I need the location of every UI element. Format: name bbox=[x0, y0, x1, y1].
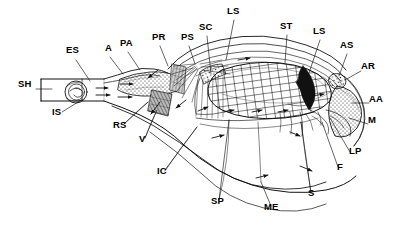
leader-lines bbox=[36, 20, 369, 206]
label-RS: RS bbox=[113, 120, 127, 130]
esophagus-spiral bbox=[65, 81, 87, 103]
mantle-edge bbox=[104, 101, 356, 211]
label-S: S bbox=[308, 188, 315, 198]
label-IS: IS bbox=[52, 107, 61, 117]
label-PS: PS bbox=[181, 32, 194, 42]
label-SH: SH bbox=[18, 79, 32, 89]
label-AS: AS bbox=[340, 40, 354, 50]
label-F: F bbox=[337, 162, 343, 172]
label-PR: PR bbox=[152, 32, 166, 42]
label-M: M bbox=[368, 115, 376, 125]
label-IC: IC bbox=[157, 166, 167, 176]
label-ES: ES bbox=[66, 45, 79, 55]
label-ST: ST bbox=[280, 21, 293, 31]
label-LS-anterior: LS bbox=[313, 26, 326, 36]
label-LP: LP bbox=[349, 146, 362, 156]
label-PA: PA bbox=[120, 38, 133, 48]
label-AR: AR bbox=[361, 61, 375, 71]
label-SC: SC bbox=[199, 22, 213, 32]
anterior-adductor bbox=[329, 86, 362, 137]
label-LS-posterior: LS bbox=[227, 6, 240, 16]
label-A: A bbox=[105, 43, 112, 53]
stomach-mass bbox=[208, 62, 332, 118]
label-ME: ME bbox=[264, 202, 279, 212]
anatomical-diagram-figure: SH ES IS A PA PR PS SC LS ST LS AS AR AA… bbox=[0, 0, 402, 228]
rectum-sac bbox=[148, 90, 172, 116]
label-AA: AA bbox=[369, 94, 383, 104]
label-V: V bbox=[139, 134, 146, 144]
shell-tube bbox=[41, 79, 104, 101]
label-SP: SP bbox=[211, 196, 224, 206]
